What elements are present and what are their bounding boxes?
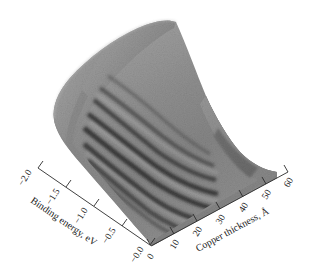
copper-thickness-tick-label: 0 <box>145 252 156 262</box>
binding-energy-tick <box>66 180 71 187</box>
binding-energy-tick-label: −0.0 <box>128 245 146 265</box>
copper-thickness-tick-label: 30 <box>214 213 228 227</box>
surface-plot-figure: −2.0 −1.5 −1.0 −0.5 −0.0 Binding energy,… <box>0 0 314 276</box>
copper-thickness-tick-label: 40 <box>237 201 251 215</box>
binding-energy-axis-title: Binding energy, eV <box>29 195 100 249</box>
binding-energy-tick <box>122 219 127 226</box>
copper-thickness-tick-label: 50 <box>260 188 274 202</box>
binding-energy-tick <box>94 199 99 206</box>
copper-thickness-tick-label: 20 <box>191 225 205 239</box>
binding-energy-tick-label: −2.0 <box>16 168 34 188</box>
copper-thickness-tick-label: 60 <box>282 176 296 190</box>
plot-canvas: −2.0 −1.5 −1.0 −0.5 −0.0 Binding energy,… <box>0 0 314 276</box>
binding-energy-tick-label: −0.5 <box>100 226 118 246</box>
copper-thickness-tick <box>284 165 288 172</box>
copper-thickness-tick-label: 10 <box>168 238 182 252</box>
binding-energy-tick <box>38 161 43 168</box>
